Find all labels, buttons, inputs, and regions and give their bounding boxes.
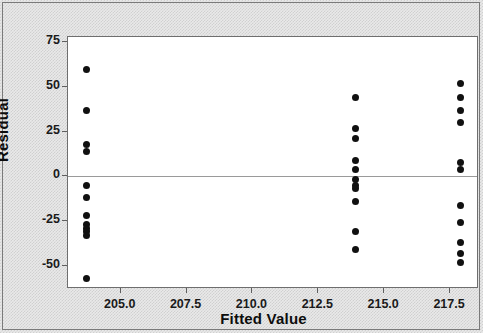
scatter-point	[352, 246, 359, 253]
x-axis-tick-label-text: 215.0	[368, 297, 399, 311]
scatter-point	[352, 198, 359, 205]
x-axis-tick-label-text: 212.5	[302, 297, 333, 311]
scatter-point	[457, 166, 464, 173]
scatter-point	[457, 94, 464, 101]
y-axis-tick-label: -50	[26, 258, 60, 272]
scatter-point	[83, 148, 90, 155]
x-axis-tick	[186, 288, 187, 293]
scatter-point	[457, 219, 464, 226]
x-axis-tick-label-text: 217.5	[433, 297, 464, 311]
scatter-point	[352, 125, 359, 132]
x-axis-tick	[120, 288, 121, 293]
y-axis-tick-label: -25	[26, 213, 60, 227]
y-axis-tick-label-text: 25	[34, 124, 60, 137]
scatter-point	[352, 94, 359, 101]
scatter-point	[83, 182, 90, 189]
scatter-point	[352, 228, 359, 235]
y-axis-tick-label: 75	[26, 34, 60, 48]
scatter-point	[83, 107, 90, 114]
scatter-point	[83, 232, 90, 239]
scatter-point	[83, 141, 90, 148]
reference-line	[68, 176, 477, 177]
y-axis-tick-label-text: 75	[34, 34, 60, 47]
x-axis-title: Fitted Value	[0, 310, 483, 327]
scatter-point	[457, 202, 464, 209]
scatter-point	[457, 259, 464, 266]
y-axis-tick-label: 25	[26, 124, 60, 138]
plot-area	[67, 36, 478, 288]
x-axis-tick	[383, 288, 384, 293]
scatter-point	[457, 250, 464, 257]
y-axis-tick-label-text: -50	[34, 258, 60, 271]
x-axis-tick-label-text: 207.5	[170, 297, 201, 311]
scatter-point	[83, 212, 90, 219]
x-axis-tick-label-text: 205.0	[104, 297, 135, 311]
y-axis-tick-label-text: 50	[34, 79, 60, 92]
scatter-point	[457, 119, 464, 126]
x-axis-tick	[251, 288, 252, 293]
scatter-point	[457, 239, 464, 246]
y-axis-tick-label: 50	[26, 79, 60, 93]
screenshot-canvas: Residual 7550250-25-50 205.0207.5210.021…	[0, 0, 483, 333]
scatter-point	[457, 107, 464, 114]
x-axis-tick	[449, 288, 450, 293]
scatter-point	[457, 159, 464, 166]
y-axis-tick-label-text: 0	[34, 168, 60, 181]
scatter-point	[83, 275, 90, 282]
y-axis-title: Residual	[0, 98, 11, 162]
x-axis-tick	[317, 288, 318, 293]
scatter-point	[352, 166, 359, 173]
scatter-point	[352, 157, 359, 164]
scatter-point	[457, 80, 464, 87]
scatter-point	[352, 185, 359, 192]
scatter-point	[83, 194, 90, 201]
scatter-point	[352, 135, 359, 142]
scatter-point	[83, 66, 90, 73]
y-axis-tick-label: 0	[26, 168, 60, 182]
x-axis-tick-label-text: 210.0	[236, 297, 267, 311]
x-axis-title-text: Fitted Value	[176, 310, 307, 327]
y-axis-tick-label-text: -25	[34, 213, 60, 226]
